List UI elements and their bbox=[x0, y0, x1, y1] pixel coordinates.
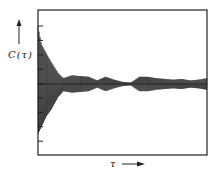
y-arrow-head bbox=[17, 19, 22, 26]
x-arrow-head bbox=[137, 162, 145, 167]
correlation-signal bbox=[38, 26, 207, 133]
x-axis-label: τ bbox=[110, 158, 116, 169]
y-axis-label: C(τ) bbox=[8, 49, 33, 60]
chart-canvas bbox=[0, 0, 217, 175]
